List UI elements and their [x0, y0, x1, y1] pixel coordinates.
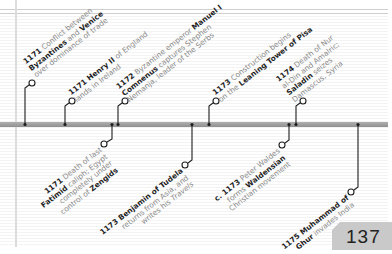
page-number: 137	[346, 226, 381, 248]
page-number-tab: 137	[332, 222, 392, 250]
